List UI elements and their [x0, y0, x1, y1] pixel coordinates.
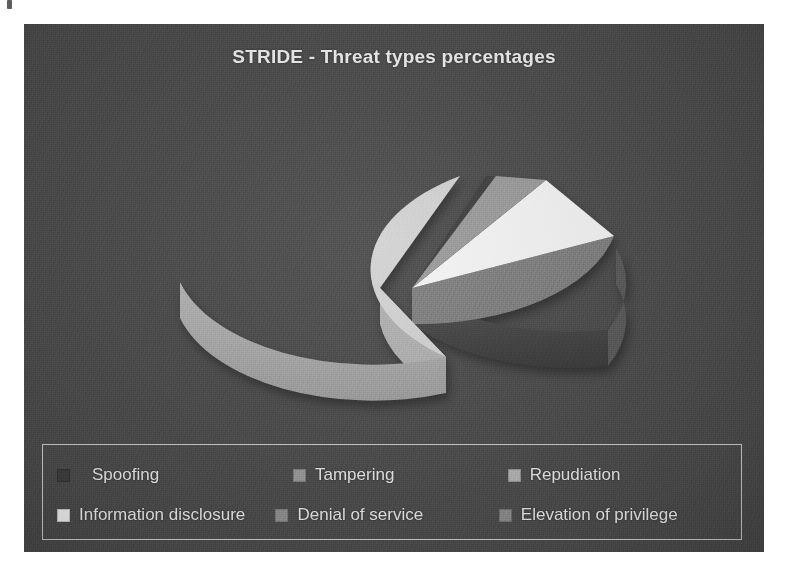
legend-label-tampering: Tampering	[315, 465, 394, 485]
legend-item-information-disclosure[interactable]: Information disclosure	[57, 505, 275, 525]
legend-swatch-elevation-of-privilege-icon	[499, 509, 512, 522]
scan-artifact-speck	[7, 0, 12, 9]
pie-svg	[94, 80, 694, 440]
legend-swatch-repudiation-icon	[508, 469, 521, 482]
chart-title: STRIDE - Threat types percentages	[24, 46, 764, 68]
legend-swatch-tampering-icon	[293, 469, 306, 482]
pie-chart-graphic	[94, 80, 694, 440]
legend-item-denial-of-service[interactable]: Denial of service	[275, 505, 498, 525]
legend-label-elevation-of-privilege: Elevation of privilege	[521, 505, 678, 525]
legend-row: Spoofing Tampering Repudiation	[57, 455, 727, 495]
chart-legend: Spoofing Tampering Repudiation Informati…	[42, 444, 742, 540]
pie-chart-figure: STRIDE - Threat types percentages	[24, 24, 764, 552]
legend-swatch-information-disclosure-icon	[57, 509, 70, 522]
legend-item-elevation-of-privilege[interactable]: Elevation of privilege	[499, 505, 727, 525]
legend-label-information-disclosure: Information disclosure	[79, 505, 245, 525]
legend-row: Information disclosure Denial of service…	[57, 495, 727, 535]
legend-item-repudiation[interactable]: Repudiation	[508, 465, 727, 485]
legend-label-spoofing: Spoofing	[92, 465, 159, 485]
screenshot-root: STRIDE - Threat types percentages	[0, 0, 786, 573]
pie-slice-side-elevation-of-privilege-right	[608, 248, 626, 366]
legend-label-repudiation: Repudiation	[530, 465, 621, 485]
legend-swatch-spoofing-icon	[57, 469, 70, 482]
legend-item-spoofing[interactable]: Spoofing	[83, 465, 293, 485]
legend-label-denial-of-service: Denial of service	[297, 505, 423, 525]
legend-item-tampering[interactable]: Tampering	[293, 465, 508, 485]
legend-swatch-denial-of-service-icon	[275, 509, 288, 522]
